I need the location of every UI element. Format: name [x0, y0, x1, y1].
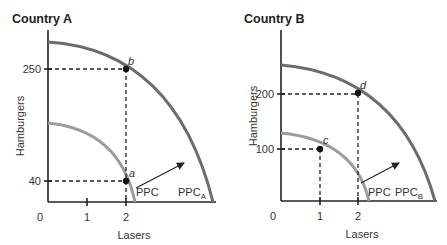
ppc-figure: Country A 250 40 0 1 2 Lasers Hamburgers…	[0, 0, 447, 245]
x-axis-label: Lasers	[345, 228, 379, 240]
chart-title: Country B	[244, 12, 304, 26]
chart-title: Country A	[12, 12, 72, 26]
x-tick-label: 0	[270, 210, 276, 222]
ppc-label: PPC	[368, 186, 391, 198]
point-c	[317, 146, 323, 152]
y-tick-label: 40	[29, 175, 41, 187]
x-tick-label: 1	[84, 211, 90, 223]
x-tick-label: 2	[355, 210, 361, 222]
point-label: c	[323, 134, 329, 146]
point-label: a	[129, 167, 135, 179]
ppc-inner-curve	[48, 123, 135, 202]
shift-arrow-icon	[361, 163, 399, 183]
x-tick-label: 1	[317, 210, 323, 222]
ppc-label: PPC	[136, 186, 159, 198]
x-axis-label: Lasers	[117, 229, 151, 241]
shift-arrow-icon	[136, 163, 184, 188]
x-tick-label: 0	[37, 211, 43, 223]
chart-country-b: Country B 200 100 0 1 2 Lasers Hamburger…	[244, 12, 437, 240]
x-tick-label: 2	[123, 211, 129, 223]
chart-country-a: Country A 250 40 0 1 2 Lasers Hamburgers…	[12, 12, 216, 241]
point-label: d	[360, 79, 367, 91]
ppc-a-label: PPCA	[178, 186, 207, 201]
ppc-b-label: PPCB	[395, 186, 423, 201]
point-label: b	[128, 55, 134, 67]
y-tick-label: 250	[23, 63, 41, 75]
y-axis-label: Hamburgers	[247, 85, 259, 146]
y-axis-label: Hamburgers	[14, 95, 26, 156]
